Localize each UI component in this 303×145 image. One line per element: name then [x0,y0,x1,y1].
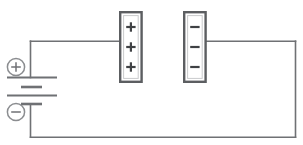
battery-symbol [7,58,57,120]
negative-plate [184,12,205,82]
wire-group [31,41,296,137]
battery-positive-terminal [7,58,24,75]
circuit-diagram: Parallel plate capacitor connected to a … [0,0,303,145]
circuit-svg [0,0,303,145]
positive-plate [120,12,141,82]
battery-negative-terminal [7,103,24,120]
